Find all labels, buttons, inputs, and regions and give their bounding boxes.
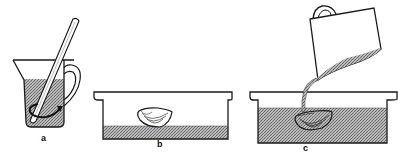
panel-label-b: b	[157, 139, 163, 149]
liquid-layer	[103, 126, 228, 139]
jug-handle	[64, 65, 80, 106]
panel-a: a	[10, 18, 80, 143]
panel-label-c: c	[303, 143, 308, 152]
panel-c: c	[250, 6, 397, 152]
pour-stream	[302, 78, 318, 112]
panel-label-a: a	[41, 133, 47, 143]
illustration: a b	[0, 0, 398, 152]
pouring-jug	[310, 6, 381, 80]
panel-b: b	[94, 92, 232, 149]
shell-object	[138, 108, 172, 127]
